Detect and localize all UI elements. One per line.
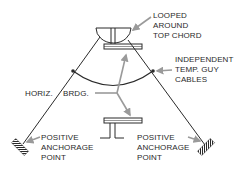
left-ground-hatch-icon xyxy=(12,139,29,156)
label-looped-around-top-chord: LOOPED AROUND TOP CHORD xyxy=(153,11,202,40)
label-line: ANCHORAGE xyxy=(137,143,189,152)
label-independent-temp-guy-cables: INDEPENDENT TEMP. GUY CABLES xyxy=(175,55,233,84)
label-brdg: BRDG. xyxy=(63,89,89,98)
label-line: INDEPENDENT xyxy=(175,55,233,64)
right-cable-node xyxy=(151,69,155,73)
horiz-brdg-arrow-up xyxy=(117,55,126,93)
label-positive-anchorage-right: POSITIVE ANCHORAGE POINT xyxy=(137,133,189,162)
bottom-chord-stem xyxy=(100,123,124,138)
independent-arrow xyxy=(157,70,172,71)
label-line: POINT xyxy=(137,153,162,162)
label-line: POSITIVE xyxy=(137,133,175,142)
bottom-chord xyxy=(100,118,142,138)
label-horiz: HORIZ. xyxy=(25,89,53,98)
label-line: ANCHORAGE xyxy=(41,143,93,152)
label-line: TEMP. GUY xyxy=(175,65,219,74)
label-line: AROUND xyxy=(153,21,188,30)
right-ground-hatch-icon xyxy=(198,139,215,156)
top-chord xyxy=(96,28,142,49)
label-line: LOOPED xyxy=(153,11,187,20)
label-line: CABLES xyxy=(175,75,207,84)
horiz-brdg-arrow-down xyxy=(117,93,130,115)
horizontal-bridging-arc xyxy=(73,71,153,86)
cable-loop-semicircle xyxy=(96,28,131,43)
anchor-right-arrow xyxy=(188,137,200,141)
left-cable-node xyxy=(71,69,75,73)
right-anchor xyxy=(198,139,215,156)
looped-arrow xyxy=(133,17,151,30)
guy-cable-diagram: LOOPED AROUND TOP CHORD INDEPENDENT TEMP… xyxy=(0,0,245,174)
label-line: TOP CHORD xyxy=(153,31,202,40)
label-line: POINT xyxy=(41,153,66,162)
label-line: POSITIVE xyxy=(41,133,79,142)
label-positive-anchorage-left: POSITIVE ANCHORAGE POINT xyxy=(41,133,93,162)
left-anchor xyxy=(12,139,29,156)
anchor-left-arrow xyxy=(27,137,40,142)
